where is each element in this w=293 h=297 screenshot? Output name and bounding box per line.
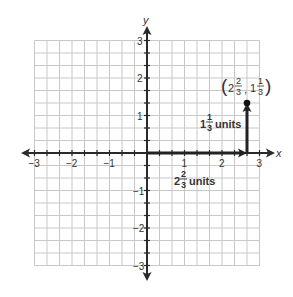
y-tick-label: 3	[137, 36, 143, 47]
svg-text:): )	[265, 75, 271, 96]
y-tick-label: −2	[133, 223, 145, 234]
svg-text:1: 1	[250, 82, 256, 94]
svg-text:1: 1	[207, 112, 212, 122]
svg-text:units: units	[215, 118, 241, 130]
svg-text:2: 2	[236, 76, 241, 86]
svg-text:units: units	[189, 175, 215, 187]
svg-text:3: 3	[181, 180, 186, 190]
point-marker	[244, 100, 251, 107]
y-tick-label: 2	[137, 73, 143, 84]
y-tick-label: −1	[133, 186, 145, 197]
y-tick-label: 1	[137, 111, 143, 122]
x-tick-label: −1	[104, 158, 116, 169]
svg-text:,: ,	[244, 83, 247, 95]
svg-text:2: 2	[181, 169, 186, 179]
svg-text:3: 3	[258, 87, 263, 97]
y-tick-label: −3	[133, 261, 145, 272]
x-tick-label: 2	[219, 158, 225, 169]
coordinate-plane: −3−2−1123321−1−2−3 x y ( 2 2 3 , 1 1 3 )…	[0, 0, 293, 297]
x-tick-label: 1	[182, 158, 188, 169]
y-axis-label: y	[142, 14, 150, 26]
x-tick-label: −2	[66, 158, 78, 169]
svg-text:2: 2	[174, 175, 180, 187]
svg-text:3: 3	[207, 123, 212, 133]
x-axis-label: x	[275, 147, 282, 159]
svg-text:1: 1	[200, 118, 206, 130]
x-tick-label: 3	[257, 158, 263, 169]
svg-text:(: (	[221, 75, 228, 96]
svg-text:1: 1	[258, 76, 263, 86]
svg-text:3: 3	[236, 87, 241, 97]
svg-text:2: 2	[228, 82, 234, 94]
x-tick-label: −3	[29, 158, 41, 169]
